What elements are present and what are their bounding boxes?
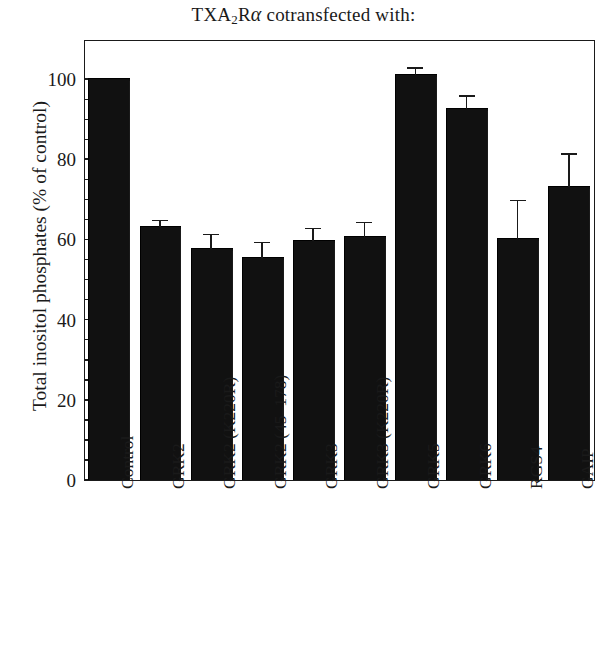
error-bar-line [415, 69, 417, 75]
error-bar-cap [152, 220, 168, 222]
error-bar-line [261, 243, 263, 257]
figure: TXA2Rα cotransfected with: Total inosito… [0, 0, 607, 657]
bar-edge-highlight [589, 189, 593, 480]
y-tick-label: 0 [30, 471, 76, 490]
bar-series [85, 41, 594, 480]
bar-edge-highlight [436, 77, 440, 480]
bar-edge-highlight [487, 111, 491, 480]
y-tick-label: 20 [30, 391, 76, 410]
plot-area [84, 40, 595, 481]
chart-title-mid: R [238, 4, 251, 25]
bar-group[interactable] [88, 39, 133, 480]
error-bar-line [568, 155, 570, 187]
bar-group[interactable] [497, 39, 542, 480]
bar-group[interactable] [395, 39, 440, 480]
y-tick-label: 60 [30, 230, 76, 249]
bar-group[interactable] [140, 39, 185, 480]
y-tick-label: 40 [30, 311, 76, 330]
x-tick-label: GRK3 (K220R) [372, 377, 392, 489]
x-tick-label: GRK6 [475, 443, 495, 489]
x-tick-label: GRK2 (K220R) [219, 377, 239, 489]
error-bar-line [210, 235, 212, 249]
bar[interactable] [497, 238, 539, 480]
bar-group[interactable] [293, 39, 338, 480]
error-bar-line [159, 221, 161, 227]
bar[interactable] [395, 74, 437, 480]
error-bar-cap [510, 200, 526, 202]
chart-title-lead: TXA [192, 4, 232, 25]
x-tick-label: GRK2 [168, 443, 188, 489]
bar[interactable] [88, 78, 130, 480]
error-bar-cap [305, 228, 321, 230]
bar[interactable] [446, 108, 488, 480]
chart-title-greek-alpha: α [251, 3, 262, 25]
bar-edge-highlight [129, 81, 133, 480]
x-tick-label: GAIP [577, 448, 597, 489]
x-tick-label: GRK3 [321, 443, 341, 489]
chart-title-tail: cotransfected with: [262, 4, 416, 25]
x-tick-label: Control [117, 436, 137, 489]
x-tick-label: GRK2 (45–178) [270, 375, 290, 489]
x-tick-label: GRK5 [423, 443, 443, 489]
error-bar-line [312, 229, 314, 241]
bar-group[interactable] [548, 39, 593, 480]
y-tick-label: 80 [30, 150, 76, 169]
error-bar-cap [203, 234, 219, 236]
x-tick-label: RGS4 [526, 446, 546, 489]
error-bar-cap [561, 153, 577, 155]
error-bar-cap [459, 95, 475, 97]
error-bar-cap [407, 67, 423, 69]
error-bar-cap [356, 222, 372, 224]
bar[interactable] [140, 226, 182, 480]
error-bar-line [517, 201, 519, 239]
error-bar-cap [254, 242, 270, 244]
chart-title: TXA2Rα cotransfected with: [0, 3, 607, 28]
y-tick-label: 100 [30, 70, 76, 89]
error-bar-line [466, 97, 468, 109]
error-bar-line [364, 223, 366, 237]
bar[interactable] [548, 186, 590, 480]
bar-group[interactable] [446, 39, 491, 480]
bar-edge-highlight [538, 241, 542, 480]
chart-title-subscript: 2 [231, 12, 238, 27]
